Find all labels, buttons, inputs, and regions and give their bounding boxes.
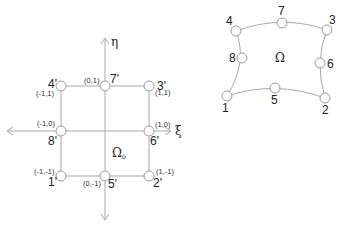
node-4-prime-coord: (-1,1)	[36, 89, 54, 98]
node-8	[237, 53, 247, 63]
xi-label: ξ	[175, 124, 182, 138]
node-5-prime-coord: (0,-1)	[83, 179, 101, 188]
diagram-canvas: η ξ Ω0 1' 2' 3' 4' 5' 6' 7' 8' (-1,-1) (…	[0, 0, 346, 236]
node-8-prime	[56, 126, 66, 136]
node-7	[277, 18, 287, 28]
node-1-prime-label: 1'	[48, 175, 57, 189]
physical-domain-label: Ω	[275, 51, 285, 65]
reference-domain-label: Ω0	[112, 146, 126, 160]
node-3-label: 3	[329, 13, 336, 27]
node-8-label: 8	[229, 51, 236, 65]
node-5-prime-label: 5'	[108, 177, 117, 191]
node-1	[222, 91, 232, 101]
node-1-prime	[56, 171, 66, 181]
node-5	[270, 83, 280, 93]
node-3-prime-coord: (1,1)	[155, 88, 171, 97]
node-2-prime-coord: (1,-1)	[156, 167, 174, 176]
node-2-prime-label: 2'	[153, 176, 162, 190]
node-7-prime-label: 7'	[110, 72, 119, 86]
node-8-prime-label: 8'	[48, 134, 57, 148]
eta-label: η	[111, 35, 118, 49]
node-5-label: 5	[271, 93, 278, 107]
node-1-label: 1	[222, 101, 229, 115]
node-4-label: 4	[226, 14, 233, 28]
node-6-prime-label: 6'	[150, 134, 159, 148]
node-6-prime-coord: (1,0)	[155, 120, 171, 129]
node-6	[315, 58, 325, 68]
node-8-prime-coord: (-1,0)	[37, 119, 55, 128]
reference-element: η ξ Ω0 1' 2' 3' 4' 5' 6' 7' 8' (-1,-1) (…	[7, 35, 182, 220]
physical-element: 1 2 3 4 5 6 7 8 Ω	[222, 4, 336, 117]
node-7-prime	[100, 81, 110, 91]
node-7-label: 7	[278, 4, 285, 18]
node-7-prime-coord: (0,1)	[84, 76, 100, 85]
node-6-label: 6	[327, 57, 334, 71]
node-3-prime	[144, 81, 154, 91]
node-1-prime-coord: (-1,-1)	[34, 167, 55, 176]
node-4-prime	[56, 81, 66, 91]
node-2-label: 2	[322, 103, 329, 117]
node-2	[320, 93, 330, 103]
